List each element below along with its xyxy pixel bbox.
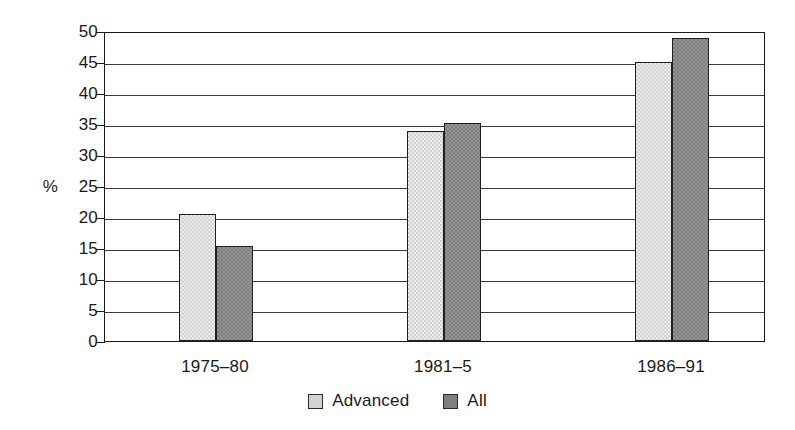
y-axis-tick-label: 40: [62, 85, 98, 103]
plot-area: [104, 32, 765, 342]
y-axis-unit-label: %: [30, 178, 58, 196]
y-axis-tick-label: 50: [62, 23, 98, 41]
y-axis-tick-label: 15: [62, 240, 98, 258]
legend-swatch-icon: [308, 394, 323, 409]
x-axis-category-label: 1986–91: [591, 357, 751, 377]
y-axis-tick-label: 25: [62, 178, 98, 196]
chart-legend: AdvancedAll: [0, 392, 795, 410]
bar-chart: % 05101520253035404550 1975–801981–51986…: [0, 0, 795, 430]
bar-advanced-1: [407, 131, 444, 341]
bar-advanced-0: [179, 214, 216, 341]
legend-label: All: [467, 392, 487, 410]
x-axis-category-label: 1981–5: [363, 357, 523, 377]
y-axis-tick-label: 35: [62, 116, 98, 134]
y-axis-tick-mark: [96, 342, 105, 343]
x-axis-category-label: 1975–80: [135, 357, 295, 377]
legend-entry-all: All: [443, 392, 487, 410]
bar-all-2: [672, 38, 709, 341]
y-axis-tick-label: 30: [62, 147, 98, 165]
y-axis-tick-label: 45: [62, 54, 98, 72]
bar-advanced-2: [635, 62, 672, 341]
legend-swatch-icon: [443, 394, 458, 409]
y-axis-tick-label: 20: [62, 209, 98, 227]
y-axis-tick-label: 5: [62, 302, 98, 320]
bar-all-1: [444, 123, 481, 341]
bar-all-0: [216, 246, 253, 341]
y-axis-tick-label: 10: [62, 271, 98, 289]
y-axis-tick-label: 0: [62, 333, 98, 351]
legend-label: Advanced: [332, 392, 409, 410]
legend-entry-advanced: Advanced: [308, 392, 409, 410]
